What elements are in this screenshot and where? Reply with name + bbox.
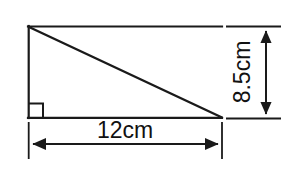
base-dimension-group: 12cm xyxy=(29,117,222,159)
height-dimension-group: 8.5cm xyxy=(226,27,281,119)
base-dimension-label: 12cm xyxy=(97,117,153,143)
geometry-figure: 12cm 8.5cm xyxy=(0,0,290,179)
height-dimension-label: 8.5cm xyxy=(229,41,255,104)
triangle-diagram-svg: 12cm 8.5cm xyxy=(0,0,290,179)
right-angle-marker xyxy=(29,104,43,118)
triangle-group xyxy=(28,26,222,118)
triangle-hypotenuse xyxy=(29,27,222,118)
